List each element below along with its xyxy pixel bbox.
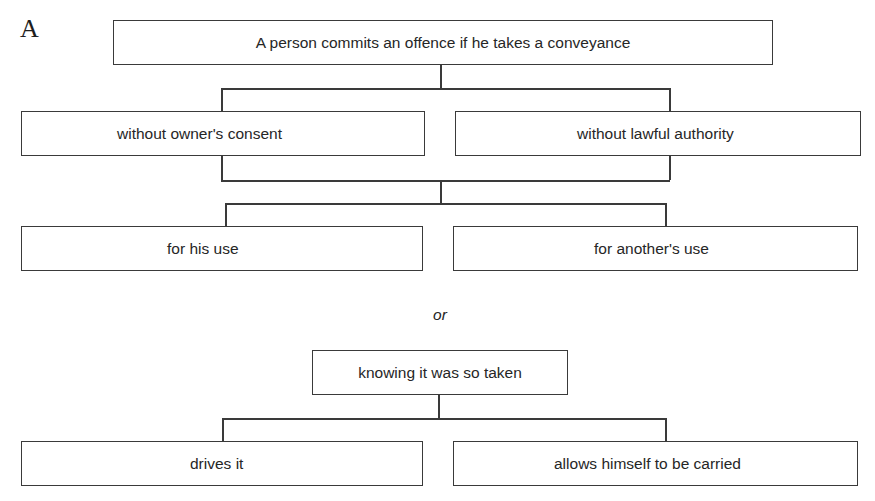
connector-row2-right <box>665 203 667 226</box>
connector-root-down <box>440 65 442 88</box>
panel-label: A <box>20 16 39 42</box>
connector-row1-merge <box>221 180 670 182</box>
without-owners-consent-text: without owner's consent <box>117 125 282 143</box>
connector-row1-left-down <box>221 156 223 180</box>
connector-row1-right-down <box>669 156 671 180</box>
connector-merge-down <box>440 180 442 203</box>
for-anothers-use-box: for another's use <box>453 226 858 271</box>
drives-it-text: drives it <box>190 455 243 473</box>
connector-row2-branch <box>225 203 666 205</box>
without-lawful-authority-box: without lawful authority <box>455 111 861 156</box>
for-his-use-text: for his use <box>167 240 239 258</box>
connector-second-root-down <box>438 395 440 418</box>
root-box-text: A person commits an offence if he takes … <box>256 34 631 52</box>
drives-it-box: drives it <box>21 441 423 486</box>
knowing-it-was-so-taken-text: knowing it was so taken <box>358 364 522 382</box>
knowing-it-was-so-taken-box: knowing it was so taken <box>312 350 568 395</box>
connector-row2-left <box>225 203 227 226</box>
for-anothers-use-text: for another's use <box>594 240 709 258</box>
without-owners-consent-box: without owner's consent <box>21 111 425 156</box>
connector-root-right <box>669 88 671 111</box>
connector-root-branch <box>221 88 670 90</box>
root-box: A person commits an offence if he takes … <box>113 20 773 65</box>
connector-row3-right <box>665 418 667 441</box>
or-separator: or <box>420 306 460 324</box>
without-lawful-authority-text: without lawful authority <box>577 125 734 143</box>
allows-himself-to-be-carried-box: allows himself to be carried <box>453 441 858 486</box>
connector-row3-branch <box>222 418 666 420</box>
connector-root-left <box>221 88 223 111</box>
for-his-use-box: for his use <box>21 226 423 271</box>
allows-himself-to-be-carried-text: allows himself to be carried <box>554 455 741 473</box>
connector-row3-left <box>222 418 224 441</box>
